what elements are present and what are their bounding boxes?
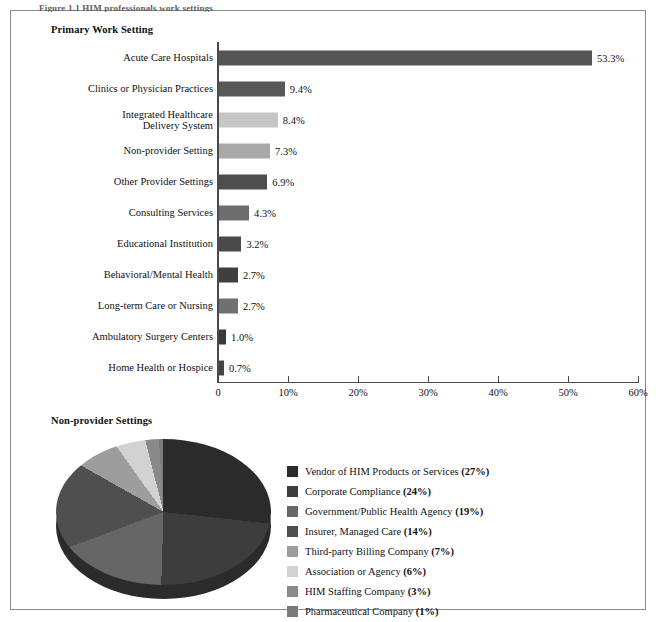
bar-rect (219, 360, 224, 375)
bar-rect (219, 205, 249, 220)
bar-rect (219, 298, 238, 313)
pie-legend: Vendor of HIM Products or Services (27%)… (287, 461, 637, 621)
legend-value: (14%) (404, 526, 432, 537)
legend-swatch (287, 466, 298, 477)
bar-rect (219, 267, 238, 282)
bar-value-label: 7.3% (275, 145, 297, 156)
legend-row: Government/Public Health Agency (19%) (287, 501, 637, 521)
legend-label: Insurer, Managed Care (14%) (305, 526, 432, 537)
x-axis-tick (288, 376, 289, 383)
bar-value-label: 9.4% (290, 83, 312, 94)
legend-value: (24%) (403, 486, 431, 497)
legend-value: (7%) (431, 546, 454, 557)
bar-row: Non-provider Setting7.3% (11, 135, 658, 166)
legend-swatch (287, 486, 298, 497)
bar-category-label: Integrated HealthcareDelivery System (23, 108, 213, 131)
bar-row: Behavioral/Mental Health2.7% (11, 259, 658, 290)
legend-label: HIM Staffing Company (3%) (305, 586, 431, 597)
bar-rect (219, 50, 592, 65)
bar-row: Integrated HealthcareDelivery System8.4% (11, 104, 658, 135)
bar-category-label: Clinics or Physician Practices (23, 83, 213, 95)
legend-label: Pharmaceutical Company (1%) (305, 606, 439, 617)
bar-category-label: Educational Institution (23, 238, 213, 250)
x-axis-tick-label: 30% (418, 387, 437, 398)
bar-row: Acute Care Hospitals53.3% (11, 42, 658, 73)
bar-rect (219, 143, 270, 158)
bar-row: Consulting Services4.3% (11, 197, 658, 228)
bar-value-label: 0.7% (229, 362, 251, 373)
bar-category-label: Long-term Care or Nursing (23, 300, 213, 312)
bar-row: Long-term Care or Nursing2.7% (11, 290, 658, 321)
legend-swatch (287, 526, 298, 537)
legend-row: Vendor of HIM Products or Services (27%) (287, 461, 637, 481)
legend-label: Association or Agency (6%) (305, 566, 426, 577)
pie-graphic (56, 439, 271, 599)
bar-rect (219, 174, 267, 189)
pie-chart-title: Non-provider Settings (51, 415, 152, 426)
x-axis-tick-label: 0 (215, 387, 220, 398)
bar-rect (219, 329, 226, 344)
x-axis-tick-label: 60% (628, 387, 647, 398)
legend-label: Vendor of HIM Products or Services (27%) (305, 466, 489, 477)
x-axis-tick-label: 20% (348, 387, 367, 398)
legend-value: (6%) (403, 566, 426, 577)
x-axis-tick (358, 376, 359, 383)
legend-value: (3%) (408, 586, 431, 597)
bar-chart: Primary Work Setting Acute Care Hospital… (11, 11, 658, 411)
bar-category-label: Other Provider Settings (23, 176, 213, 188)
legend-value: (1%) (416, 606, 439, 617)
legend-swatch (287, 546, 298, 557)
bar-category-label: Consulting Services (23, 207, 213, 219)
x-axis-tick-label: 10% (278, 387, 297, 398)
legend-swatch (287, 586, 298, 597)
bar-value-label: 2.7% (243, 300, 265, 311)
x-axis-tick-label: 40% (488, 387, 507, 398)
x-axis-tick (428, 376, 429, 383)
bar-value-label: 4.3% (254, 207, 276, 218)
legend-value: (19%) (455, 506, 483, 517)
legend-row: HIM Staffing Company (3%) (287, 581, 637, 601)
bar-row: Clinics or Physician Practices9.4% (11, 73, 658, 104)
legend-row: Corporate Compliance (24%) (287, 481, 637, 501)
bar-row: Home Health or Hospice0.7% (11, 352, 658, 383)
bar-value-label: 3.2% (246, 238, 268, 249)
x-axis-tick (638, 376, 639, 383)
bar-category-label: Behavioral/Mental Health (23, 269, 213, 281)
figure-frame: Figure 1.1 HIM professionals work settin… (10, 10, 646, 610)
legend-swatch (287, 566, 298, 577)
pie-chart: Non-provider Settings Vendor of HIM Prod… (11, 409, 658, 621)
legend-label: Third-party Billing Company (7%) (305, 546, 454, 557)
bar-row: Other Provider Settings6.9% (11, 166, 658, 197)
legend-value: (27%) (461, 466, 489, 477)
x-axis-tick (498, 376, 499, 383)
bar-category-label: Home Health or Hospice (23, 362, 213, 374)
bar-rect (219, 81, 285, 96)
bar-category-label: Acute Care Hospitals (23, 52, 213, 64)
bar-value-label: 6.9% (272, 176, 294, 187)
bar-rect (219, 236, 241, 251)
legend-label: Corporate Compliance (24%) (305, 486, 431, 497)
bar-row: Educational Institution3.2% (11, 228, 658, 259)
legend-row: Association or Agency (6%) (287, 561, 637, 581)
bar-value-label: 2.7% (243, 269, 265, 280)
legend-swatch (287, 506, 298, 517)
bar-row: Ambulatory Surgery Centers1.0% (11, 321, 658, 352)
x-axis-tick-label: 50% (558, 387, 577, 398)
bar-value-label: 8.4% (283, 114, 305, 125)
bar-category-label: Non-provider Setting (23, 145, 213, 157)
legend-row: Third-party Billing Company (7%) (287, 541, 637, 561)
bar-rect (219, 112, 278, 127)
bar-value-label: 1.0% (231, 331, 253, 342)
bar-category-label: Ambulatory Surgery Centers (23, 331, 213, 343)
pie-slices (56, 439, 271, 585)
legend-swatch (287, 606, 298, 617)
legend-label: Government/Public Health Agency (19%) (305, 506, 483, 517)
x-axis-tick (568, 376, 569, 383)
legend-row: Pharmaceutical Company (1%) (287, 601, 637, 621)
bar-value-label: 53.3% (597, 52, 624, 63)
bar-chart-title: Primary Work Setting (51, 24, 153, 35)
legend-row: Insurer, Managed Care (14%) (287, 521, 637, 541)
